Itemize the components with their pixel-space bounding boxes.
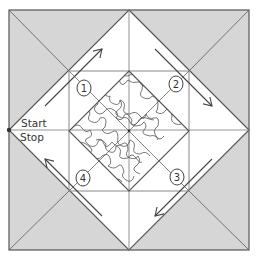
step-4-number: 4 [80,173,86,184]
step-2-badge: 2 [169,76,183,92]
start-stop-point [7,128,11,132]
stop-label: Stop [20,131,44,143]
step-1-badge: 1 [77,80,91,96]
step-2-number: 2 [173,79,179,90]
start-label: Start [21,117,47,129]
step-3-number: 3 [174,172,180,183]
step-1-number: 1 [81,83,87,94]
center-point [128,130,131,133]
step-3-badge: 3 [170,169,184,185]
quilt-block-diagram: 1 2 3 4 Start Stop [0,0,258,260]
step-4-badge: 4 [76,170,90,186]
